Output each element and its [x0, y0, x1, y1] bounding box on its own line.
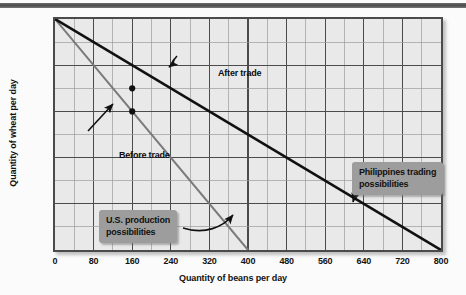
x-axis-title: Quantity of beans per day — [0, 273, 466, 283]
x-tick-label-80: 80 — [74, 256, 114, 266]
x-tick-label-240: 240 — [151, 256, 191, 266]
x-tick-label-480: 480 — [267, 256, 307, 266]
x-tick-label-800: 800 — [421, 256, 461, 266]
y-axis-title: Quantity of wheat per day — [8, 58, 18, 208]
x-tick-label-720: 720 — [382, 256, 422, 266]
figure-container: After trade Before trade U.S. production… — [0, 0, 466, 295]
x-tick-label-320: 320 — [189, 256, 229, 266]
x-tick-label-160: 160 — [112, 256, 152, 266]
x-tick-label-640: 640 — [344, 256, 384, 266]
x-tick-label-0: 0 — [35, 256, 75, 266]
x-axis-tick-labels: 080160240320400480560640720800 — [0, 0, 466, 295]
x-tick-label-400: 400 — [228, 256, 268, 266]
x-tick-label-560: 560 — [305, 256, 345, 266]
